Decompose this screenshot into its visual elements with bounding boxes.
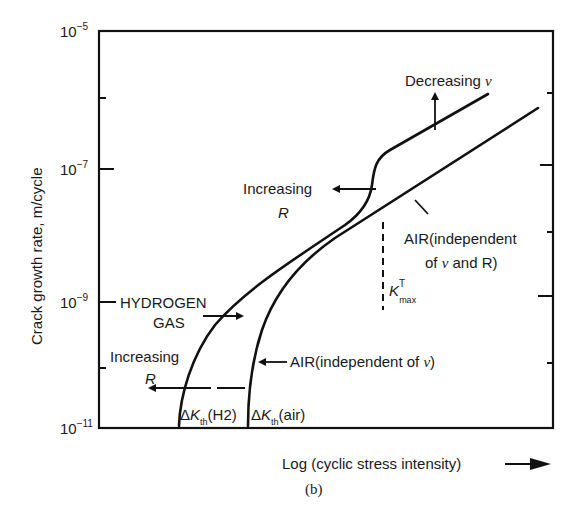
air-indep-pointer	[415, 200, 428, 214]
y-tick-1e-9: 10−9	[60, 292, 89, 311]
crack-growth-chart: 10−5 10−7 10−9 10−11 Crack growth rate, …	[0, 0, 575, 518]
right-axis-ticks	[538, 93, 553, 363]
kmax-label: KTmax	[389, 278, 417, 305]
hydrogen-label-line2: GAS	[153, 314, 185, 331]
r-bottom-label: R	[145, 370, 156, 387]
increasing-r-bottom-arrow	[148, 384, 245, 392]
dkth-h2-label: ΔKth(H2)	[180, 406, 237, 427]
dkth-air-label: ΔKth(air)	[251, 406, 305, 427]
air-indep-nu-r-label-line2: of ν and R)	[425, 254, 498, 271]
left-axis-ticks	[99, 98, 114, 368]
y-tick-1e-7: 10−7	[60, 159, 89, 178]
air-indep-nu-label: AIR(independent of ν)	[290, 353, 435, 370]
x-axis-label: Log (cyclic stress intensity)	[282, 455, 461, 472]
increasing-r-top-label: Increasing	[243, 180, 312, 197]
r-top-label: R	[278, 204, 289, 221]
decreasing-nu-label: Decreasing ν	[405, 72, 492, 89]
y-tick-1e-11: 10−11	[60, 418, 93, 437]
y-tick-1e-5: 10−5	[60, 21, 89, 40]
air-indep-nu-arrow	[258, 358, 287, 366]
hydrogen-label-line1: HYDROGEN	[120, 294, 207, 311]
increasing-r-bottom-label: Increasing	[110, 348, 179, 365]
x-axis-arrow	[505, 458, 551, 470]
hydrogen-gas-arrow	[203, 312, 244, 320]
decreasing-nu-arrow	[431, 92, 439, 130]
air-indep-nu-r-label-line1: AIR(independent	[404, 230, 517, 247]
figure-caption: (b)	[305, 481, 323, 498]
y-tick-labels: 10−5 10−7 10−9 10−11	[60, 21, 93, 437]
y-axis-label: Crack growth rate, m/cycle	[28, 167, 45, 345]
